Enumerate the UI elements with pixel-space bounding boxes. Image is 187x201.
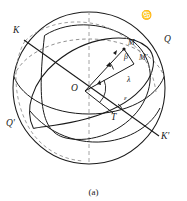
angle-arc-lambda bbox=[100, 80, 106, 102]
sphere-diagram-svg bbox=[0, 0, 187, 201]
label-angle-beta: β bbox=[124, 53, 128, 61]
label-pole-ecliptic-north: K bbox=[13, 26, 19, 36]
label-star-projection-Mprime: M' bbox=[139, 54, 147, 62]
label-equator-point-east: Q bbox=[164, 35, 171, 45]
label-angle-epsilon: ε bbox=[124, 95, 127, 102]
label-pole-ecliptic-south: K' bbox=[161, 132, 169, 142]
label-star-M: M bbox=[128, 39, 135, 47]
figure-celestial-sphere: K K' Q Q' O T M M' β λ ε ♋ (a) bbox=[0, 0, 187, 201]
figure-caption: (a) bbox=[0, 187, 187, 197]
radius-O-to-M bbox=[85, 49, 124, 91]
arrow-tick-beta bbox=[106, 62, 111, 67]
lower-small-circle-arc bbox=[30, 108, 160, 142]
label-solstice-symbol: ♋ bbox=[141, 11, 152, 20]
label-center-O: O bbox=[71, 84, 78, 94]
label-vernal-point-T: T bbox=[111, 113, 116, 123]
arrow-tick-north bbox=[113, 50, 117, 55]
star-point-marker bbox=[122, 47, 125, 50]
label-angle-lambda: λ bbox=[127, 76, 130, 84]
label-equator-point-west: Q' bbox=[6, 119, 15, 129]
